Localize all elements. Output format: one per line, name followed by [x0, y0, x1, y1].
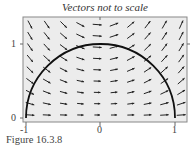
plot-frame	[23, 17, 187, 122]
x-tick-label: 0	[97, 124, 102, 135]
y-tick-label: 0	[11, 112, 16, 123]
x-tick-label: 1	[172, 124, 177, 135]
figure-caption: Figure 16.3.8	[6, 134, 62, 145]
y-tick-label: 1	[11, 38, 16, 49]
